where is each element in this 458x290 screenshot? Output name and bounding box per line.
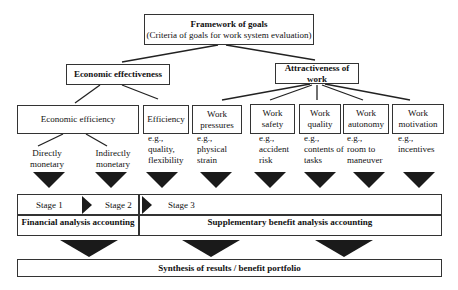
arrow-right-icon — [142, 196, 152, 214]
arrow-down-icon — [315, 240, 373, 257]
work-motivation-box: Work motivation — [392, 104, 444, 134]
stage-block: Stage 1 Stage 2 Stage 3 Financial analys… — [17, 194, 442, 236]
arrow-down-icon — [403, 172, 435, 188]
stage-divider-horizontal — [18, 214, 441, 216]
work-pressures-example: e.g., physical strain — [197, 133, 241, 166]
work-autonomy-box: Work autonomy — [343, 104, 389, 134]
work-pressures-box: Work pressures — [192, 105, 242, 134]
efficiency-example: e.g., quality, flexibility — [148, 133, 196, 166]
arrow-down-icon — [200, 172, 232, 188]
work-autonomy-example: e.g., room to maneuver — [347, 133, 393, 166]
arrow-down-icon — [353, 172, 385, 188]
work-safety-example: e.g., accident risk — [259, 133, 299, 166]
economic-efficiency-box: Economic efficiency — [17, 105, 139, 134]
directly-monetary-label: Directly monetary — [22, 148, 72, 170]
arrow-down-icon — [304, 172, 336, 188]
economic-effectiveness-box: Economic effectiveness — [66, 64, 170, 85]
arrow-down-icon — [60, 240, 118, 257]
stage-2-label: Stage 2 — [105, 200, 132, 210]
stage-1-label: Stage 1 — [36, 200, 63, 210]
synthesis-box: Synthesis of results / benefit portfolio — [17, 259, 442, 277]
stage-3-label: Stage 3 — [168, 200, 195, 210]
work-motivation-example: e.g., incentives — [398, 133, 444, 155]
attractiveness-of-work-box: Attractiveness of work — [275, 63, 359, 84]
arrow-down-icon — [146, 172, 178, 188]
financial-analysis-label: Financial analysis accounting — [18, 217, 138, 227]
work-quality-box: Work quality — [299, 104, 341, 134]
arrow-down-icon — [95, 172, 127, 188]
work-safety-box: Work safety — [250, 104, 295, 134]
supplementary-analysis-label: Supplementary benefit analysis accountin… — [139, 217, 441, 227]
indirectly-monetary-label: Indirectly monetary — [86, 148, 140, 170]
framework-subtitle: (Criteria of goals for work system evalu… — [147, 30, 312, 41]
arrow-down-icon — [254, 172, 286, 188]
framework-title: Framework of goals — [191, 19, 268, 30]
arrow-right-icon — [82, 196, 92, 214]
efficiency-box: Efficiency — [143, 105, 189, 134]
framework-of-goals-box: Framework of goals (Criteria of goals fo… — [144, 14, 314, 45]
arrow-down-icon — [182, 240, 240, 257]
arrow-down-icon — [33, 172, 65, 188]
